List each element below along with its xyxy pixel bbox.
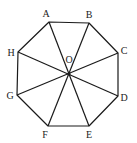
vertex-label-d: D [120,92,127,103]
vertex-label-h: H [7,47,14,58]
center-point-o [67,72,70,75]
vertex-label-f: F [42,129,48,140]
octagon-diagram: ABCDEFGH O [0,0,137,143]
vertex-label-e: E [86,129,92,140]
center-label: O [65,54,72,65]
vertex-label-c: C [121,45,128,56]
vertex-label-g: G [6,90,13,101]
vertex-label-a: A [42,8,50,19]
vertex-label-b: B [86,9,93,20]
